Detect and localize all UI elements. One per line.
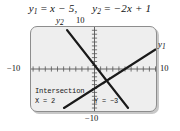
graph-viewport: Intersection X = 2 Y = −3 bbox=[30, 26, 157, 112]
curve-label-y2: y2 bbox=[56, 16, 64, 27]
intersection-readout-x: X = 2 bbox=[35, 98, 55, 105]
intersection-readout-y: Y = −3 bbox=[94, 98, 118, 105]
axis-label-top: 10 bbox=[76, 16, 85, 25]
equation-y2-expression: −2x + 1 bbox=[114, 2, 152, 14]
curve-label-y2-subscript: 2 bbox=[60, 18, 64, 27]
equation-y1-subscript: 1 bbox=[34, 7, 38, 16]
equation-y2: y2 = −2x + 1 bbox=[92, 2, 151, 16]
calculator-screen-wrapper: Intersection X = 2 Y = −3 bbox=[30, 26, 157, 112]
axis-label-right: 10 bbox=[160, 64, 169, 73]
equation-y1: y1 = x − 5, bbox=[29, 2, 78, 16]
curve-label-y1-subscript: 1 bbox=[162, 42, 166, 51]
equation-y2-subscript: 2 bbox=[97, 7, 101, 16]
intersection-cursor bbox=[104, 78, 110, 84]
equation-y1-relation: = bbox=[41, 2, 47, 14]
intersection-readout-title: Intersection bbox=[35, 88, 84, 95]
equation-y1-expression: x − 5, bbox=[50, 2, 77, 14]
axis-label-bottom: −10 bbox=[85, 114, 98, 123]
curve-label-y1: y1 bbox=[158, 40, 166, 51]
equation-y2-relation: = bbox=[104, 2, 110, 14]
axis-label-left: −10 bbox=[7, 64, 20, 73]
equations-caption: y1 = x − 5, y2 = −2x + 1 bbox=[0, 2, 180, 16]
